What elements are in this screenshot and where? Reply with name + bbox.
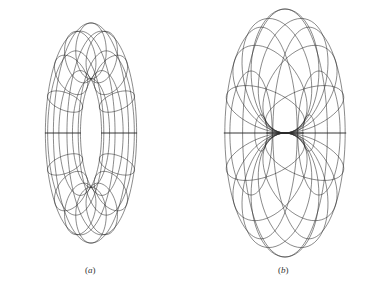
wireframe-line [226, 86, 304, 133]
wireframe-line [251, 9, 319, 133]
caption-b-letter: b [281, 265, 286, 275]
caption-b: (b) [278, 265, 289, 275]
figure-canvas: (a) (b) [0, 0, 382, 297]
caption-a: (a) [85, 265, 96, 275]
wireframe-line [251, 133, 319, 257]
wireframe-line [99, 91, 134, 112]
wireframe-line [65, 183, 96, 235]
wireframe-line [99, 154, 134, 175]
caption-a-letter: a [88, 265, 93, 275]
wireframe-line [47, 91, 82, 112]
wireframe-line [65, 31, 96, 83]
torus-figure [0, 0, 382, 297]
wireframe-line [47, 154, 82, 175]
wireframe-line [76, 187, 107, 243]
torus-b-wireframe [224, 9, 346, 257]
wireframe-line [86, 183, 117, 235]
wireframe-line [76, 23, 107, 79]
wireframe-line [265, 133, 343, 180]
torus-a-wireframe [45, 23, 137, 243]
wireframe-line [265, 86, 343, 133]
wireframe-line [86, 31, 117, 83]
wireframe-line [226, 133, 304, 180]
